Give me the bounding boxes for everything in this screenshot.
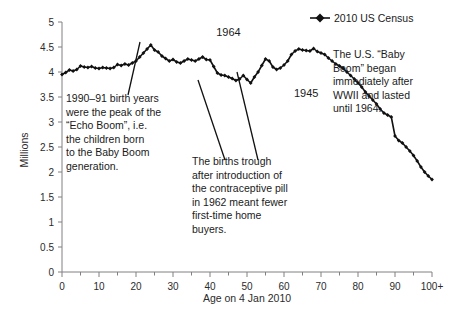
y-tick-label: 5 <box>48 17 54 28</box>
y-tick-label: 2.5 <box>40 142 54 153</box>
series-point <box>97 67 101 71</box>
series-point <box>108 67 112 71</box>
baby-boom-line-4: until 1964. <box>333 102 451 116</box>
births-trough-line-0: The births trough <box>192 155 332 169</box>
legend-label-0: 2010 US Census <box>334 12 413 24</box>
baby-boom-line-0: The U.S. “Baby <box>333 48 451 62</box>
echo-boom-line-4: to the Baby Boom <box>66 146 196 160</box>
label-1964: 1964 <box>216 26 240 38</box>
echo-boom-line-1: were the peak of the <box>66 106 196 120</box>
y-tick-label: 4 <box>48 67 54 78</box>
x-tick-label: 20 <box>130 281 142 292</box>
y-tick-label: 3 <box>48 117 54 128</box>
births-trough-line-4: first-time home <box>192 209 332 223</box>
series-point <box>101 66 105 70</box>
x-tick-label: 80 <box>352 281 364 292</box>
x-tick-label: 70 <box>315 281 327 292</box>
x-tick-label: 30 <box>167 281 179 292</box>
echo-boom-line-0: 1990–91 birth years <box>66 92 196 106</box>
y-tick-label: 0 <box>48 267 54 278</box>
y-axis-ticks: 00.511.522.533.544.55 <box>40 17 62 278</box>
series-point <box>105 66 109 70</box>
series-point <box>86 66 90 70</box>
inline-data-labels: 19641945 <box>216 26 318 99</box>
x-tick-label: 40 <box>204 281 216 292</box>
echo-boom-annotation: 1990–91 birth years were the peak of the… <box>66 92 196 174</box>
x-tick-label: 10 <box>93 281 105 292</box>
births-trough-line-1: after introduction of <box>192 169 332 183</box>
legend-diamond-icon <box>316 14 325 23</box>
series-point <box>304 49 308 53</box>
baby-boom-line-2: immediately after <box>333 75 451 89</box>
x-axis-title: Age on 4 Jan 2010 <box>203 292 291 304</box>
x-tick-label: 50 <box>241 281 253 292</box>
x-tick-label: 100+ <box>421 281 444 292</box>
leader-trough-b <box>237 72 258 160</box>
y-tick-label: 3.5 <box>40 92 54 103</box>
baby-boom-annotation: The U.S. “Baby Boom” began immediately a… <box>333 48 451 116</box>
x-tick-label: 90 <box>389 281 401 292</box>
leader-trough-a <box>198 80 225 160</box>
births-trough-line-5: buyers. <box>192 223 332 237</box>
population-age-chart: 00.511.522.533.544.55 010203040506070809… <box>0 0 460 320</box>
y-tick-label: 1 <box>48 217 54 228</box>
echo-boom-line-5: generation. <box>66 160 196 174</box>
baby-boom-line-1: Boom” began <box>333 62 451 76</box>
leader-echo-boom <box>128 42 140 95</box>
x-tick-label: 60 <box>278 281 290 292</box>
births-trough-line-2: the contraceptive pill <box>192 182 332 196</box>
x-axis-ticks: 0102030405060708090100+ <box>59 272 443 292</box>
x-tick-label: 0 <box>59 281 65 292</box>
series-point <box>301 48 305 52</box>
label-1945: 1945 <box>294 87 318 99</box>
births-trough-annotation: The births trough after introduction of … <box>192 155 332 237</box>
series-point <box>82 65 86 69</box>
y-tick-label: 4.5 <box>40 42 54 53</box>
births-trough-line-3: in 1962 meant fewer <box>192 196 332 210</box>
y-tick-label: 1.5 <box>40 192 54 203</box>
echo-boom-line-3: the children born <box>66 133 196 147</box>
y-tick-label: 0.5 <box>40 242 54 253</box>
y-axis-title: Millions <box>18 132 30 167</box>
echo-boom-line-2: “Echo Boom”, i.e. <box>66 119 196 133</box>
baby-boom-line-3: WWII and lasted <box>333 89 451 103</box>
y-tick-label: 2 <box>48 167 54 178</box>
legend: 2010 US Census <box>310 12 413 24</box>
series-point <box>190 58 194 62</box>
